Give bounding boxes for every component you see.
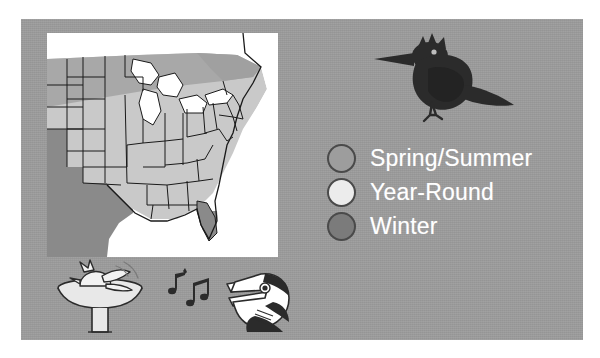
legend-item-spring-summer: Spring/Summer — [327, 141, 577, 175]
bird-bath-icon — [50, 258, 150, 336]
legend-item-year-round: Year-Round — [327, 175, 577, 209]
belted-kingfisher-silhouette — [366, 29, 526, 139]
screenshot-root: Spring/Summer Year-Round Winter — [0, 0, 600, 358]
music-note-icon — [168, 268, 187, 294]
singing-bird-head-icon — [161, 258, 291, 336]
range-map — [47, 33, 278, 257]
legend-label: Year-Round — [370, 181, 494, 204]
bird-silhouette-graphic — [366, 29, 526, 139]
legend-item-winter: Winter — [327, 209, 577, 243]
range-map-graphic — [47, 33, 278, 257]
circle-icon — [327, 178, 356, 207]
illustration-panel: Spring/Summer Year-Round Winter — [21, 19, 583, 340]
circle-icon — [327, 212, 356, 241]
bird-bath-graphic — [50, 258, 150, 336]
legend: Spring/Summer Year-Round Winter — [327, 141, 577, 243]
legend-label: Winter — [370, 215, 438, 238]
bird-head — [227, 274, 289, 332]
circle-icon — [327, 144, 356, 173]
music-note-icon — [186, 278, 209, 306]
bird-eye — [431, 49, 436, 54]
singing-bird-graphic — [161, 258, 291, 336]
legend-label: Spring/Summer — [370, 147, 532, 170]
